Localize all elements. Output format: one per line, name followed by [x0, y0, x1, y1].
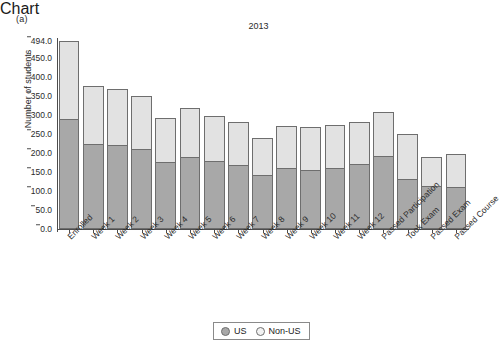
legend-item-non-us: Non-US [256, 326, 301, 336]
filled-circle-icon [221, 327, 230, 336]
plot-area: 0.050.0100.0150.0200.0250.0300.0350.0400… [57, 41, 468, 229]
y-axis-tick-label: 0.0 [40, 225, 57, 234]
bar-segment-non-us [107, 89, 128, 145]
legend-item-us: US [221, 326, 247, 336]
bar-segment-us [59, 119, 80, 229]
y-axis-tick-mark [27, 53, 31, 54]
y-axis-tick-label: 350.0 [31, 92, 57, 101]
y-axis-tick-label: 250.0 [31, 130, 57, 139]
y-axis-tick-label: 50.0 [35, 206, 57, 215]
bar-segment-non-us [446, 154, 467, 187]
y-axis-tick-label: 450.0 [31, 53, 57, 62]
y-axis-tick-mark [27, 167, 31, 168]
bar-passed-participation [373, 112, 394, 229]
bar-segment-non-us [59, 41, 80, 119]
bar-segment-non-us [252, 138, 273, 175]
bar-segment-non-us [325, 125, 346, 168]
y-axis-tick-label: 400.0 [31, 73, 57, 82]
bar-week-7 [228, 122, 249, 229]
y-axis-tick-label: 200.0 [31, 149, 57, 158]
legend-label-us: US [234, 326, 247, 336]
bar-week-2 [107, 89, 128, 229]
bar-segment-non-us [397, 134, 418, 179]
legend-label-non-us: Non-US [269, 326, 301, 336]
bar-week-5 [180, 108, 201, 229]
y-axis-tick-label: 300.0 [31, 111, 57, 120]
bar-segment-non-us [373, 112, 394, 156]
y-axis-tick-mark [27, 129, 31, 130]
y-axis-title: Number of students [23, 9, 33, 169]
open-circle-icon [256, 327, 265, 336]
bar-enrolled [59, 41, 80, 229]
bar-segment-non-us [155, 118, 176, 163]
bar-segment-non-us [180, 108, 201, 158]
y-axis-tick-label: 150.0 [31, 168, 57, 177]
y-axis-tick-mark [27, 72, 31, 73]
bar-segment-non-us [228, 122, 249, 165]
y-axis-tick-mark [27, 148, 31, 149]
bar-segment-non-us [131, 96, 152, 149]
bar-segment-non-us [300, 127, 321, 170]
bar-week-4 [155, 118, 176, 230]
y-axis-tick-label: 494.0 [31, 37, 57, 46]
bar-week-3 [131, 96, 152, 229]
y-axis-tick-label: 100.0 [31, 187, 57, 196]
chart-title: 2013 [0, 21, 475, 31]
y-axis-tick-mark [27, 186, 31, 187]
chart-legend: US Non-US [213, 322, 310, 340]
bar-week-6 [204, 116, 225, 229]
y-axis-tick-mark [27, 91, 31, 92]
bar-segment-non-us [83, 86, 104, 143]
y-axis-tick-mark [27, 36, 31, 37]
bar-segment-non-us [204, 116, 225, 161]
y-axis-tick-mark [31, 205, 35, 206]
bar-week-1 [83, 86, 104, 229]
y-axis-tick-mark [36, 224, 40, 225]
bar-segment-non-us [276, 126, 297, 168]
bar-segment-non-us [349, 122, 370, 163]
y-axis-tick-mark [27, 110, 31, 111]
